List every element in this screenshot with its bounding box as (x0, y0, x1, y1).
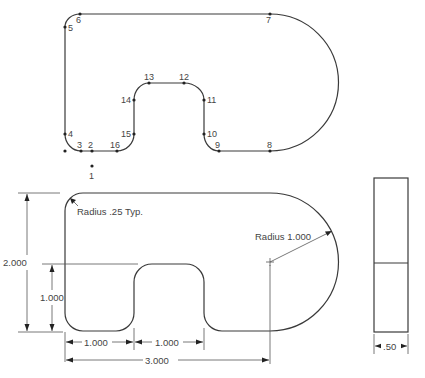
dimension-overall-height: 2.000 (3, 194, 30, 331)
profile-point-label: 12 (179, 72, 189, 82)
profile-point-5 (63, 25, 66, 28)
dimension-left-leg-width: 1.000 (66, 337, 133, 348)
profile-point-label: 3 (77, 140, 82, 150)
dimension-center-distance: 3.000 (66, 355, 269, 366)
profile-point-label: 4 (68, 129, 73, 139)
profile-point-label: 9 (215, 140, 220, 150)
profile-point-1 (90, 164, 93, 167)
notch-width-label: 1.000 (155, 337, 179, 348)
profile-point-4 (63, 132, 66, 135)
dimension-notch-height: 1.000 (40, 265, 64, 331)
corner-radius-label: Radius .25 Typ. (77, 206, 143, 217)
engineering-drawing: 12345678910111213141516 2.000 1.000 1. (0, 0, 425, 378)
corner-radius-callout: Radius .25 Typ. (70, 198, 143, 217)
profile-point-label: 2 (88, 140, 93, 150)
top-view-profile (65, 14, 338, 151)
profile-point-label: 5 (68, 23, 73, 33)
profile-point-10 (202, 132, 205, 135)
profile-point-label: 1 (89, 171, 94, 181)
profile-point-15 (132, 132, 135, 135)
arc-radius-label: Radius 1.000 (255, 231, 311, 242)
left-leg-width-label: 1.000 (84, 337, 108, 348)
profile-point-label: 7 (266, 15, 271, 25)
profile-point-label: 11 (207, 95, 216, 105)
notch-height-label: 1.000 (40, 292, 64, 303)
arc-radius-callout: Radius 1.000 (255, 231, 332, 266)
dimension-notch-width: 1.000 (135, 337, 203, 348)
profile-point-label: 14 (121, 95, 131, 105)
thickness-label: .50 (383, 341, 396, 352)
profile-point-label: 15 (121, 129, 131, 139)
center-distance-label: 3.000 (145, 355, 169, 366)
profile-point-label: 16 (110, 140, 120, 150)
profile-point-label: 13 (144, 72, 154, 82)
side-view: .50 (374, 178, 408, 354)
profile-points: 12345678910111213141516 (63, 12, 272, 181)
overall-height-label: 2.000 (3, 257, 27, 268)
profile-point-label: 6 (76, 15, 81, 25)
profile-point-label: 10 (207, 129, 217, 139)
profile-point-14 (132, 98, 135, 101)
profile-point-label: 8 (267, 140, 272, 150)
profile-point-11 (202, 98, 205, 101)
extension-lines (18, 193, 270, 364)
origin-marker (63, 149, 66, 152)
